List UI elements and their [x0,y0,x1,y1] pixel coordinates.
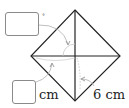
center-angle-arc [63,44,75,56]
degree-symbol: ° [42,13,45,19]
length-unit-label: cm [39,88,59,101]
length-answer-box[interactable] [12,80,36,104]
half-diagonal-arc [36,58,75,61]
side-length-label: 6 cm [93,88,125,101]
length-pointer-arc [36,64,52,82]
angle-answer-box[interactable] [5,12,39,36]
angle-pointer-arc [38,25,68,44]
square-diagram: ° cm 6 cm [0,0,129,108]
side-guide-dotted [77,58,80,90]
